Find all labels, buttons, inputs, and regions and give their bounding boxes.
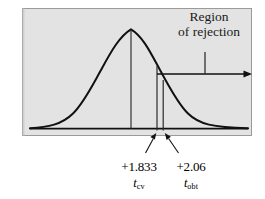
obtained-value-symbol: tobt (158, 176, 224, 191)
obtained-value-symbol-subscript: obt (187, 182, 198, 191)
obtained-value-leader-shaft (169, 139, 179, 154)
region-of-rejection-label: Region of rejection (168, 9, 250, 39)
critical-value-symbol-subscript: cv (137, 182, 145, 191)
obtained-value-label: +2.06 tobt (158, 159, 224, 191)
obtained-value-number: +2.06 (158, 159, 224, 175)
panel-edge-shadow (23, 9, 25, 136)
statistics-figure: Region of rejection +1.833 tcv +2.06 tob… (0, 0, 265, 199)
region-label-line2: of rejection (168, 24, 250, 39)
region-label-line1: Region (168, 9, 250, 24)
critical-value-leader-shaft (146, 139, 154, 154)
